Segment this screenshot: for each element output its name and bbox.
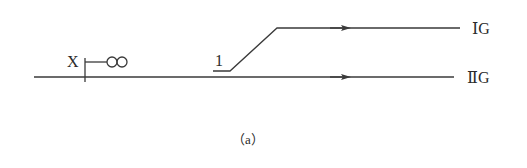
figure-caption: （a）: [232, 132, 264, 147]
track-lower-label: ⅡG: [467, 69, 490, 86]
track-upper-line: [213, 28, 460, 71]
switch-label: 1: [215, 52, 223, 69]
signal-label: X: [67, 53, 79, 70]
track-upper: [213, 28, 460, 71]
track-upper-label: ⅠG: [472, 20, 490, 37]
signal-x: [85, 57, 127, 82]
signal-lamp-2-icon: [117, 57, 127, 67]
signal-lamp-1-icon: [107, 57, 117, 67]
station-track-diagram: X 1 ⅠG ⅡG （a）: [0, 0, 527, 168]
